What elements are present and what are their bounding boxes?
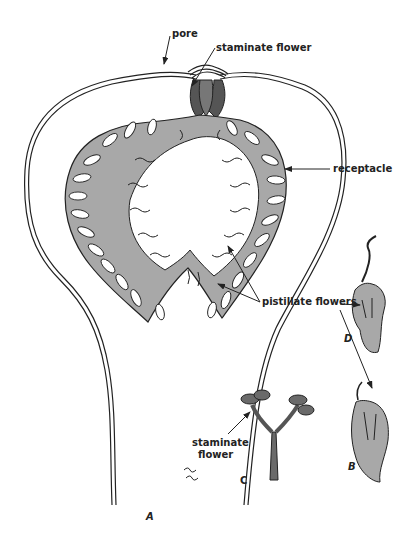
detached-style-fragment xyxy=(184,468,198,480)
label-pistillate-flowers: pistillate flowers xyxy=(262,296,357,307)
label-staminate-flower-top: staminate flower xyxy=(216,42,311,53)
panel-letter-a: A xyxy=(146,511,154,522)
panel-letter-d: D xyxy=(344,333,352,344)
panel-b-pistillate-flower xyxy=(352,382,389,482)
panel-letter-c: C xyxy=(240,475,247,486)
label-staminate-flower-c-line1: staminate xyxy=(192,437,249,448)
label-staminate-flower-c-line2: flower xyxy=(198,449,233,460)
label-pore: pore xyxy=(172,28,198,39)
label-receptacle: receptacle xyxy=(333,163,392,174)
staminate-flower-cluster xyxy=(190,80,225,118)
panel-letter-b: B xyxy=(348,461,356,472)
panel-d-pistillate-flower xyxy=(352,236,385,353)
diagram-canvas: pore staminate flower receptacle pistill… xyxy=(0,0,414,536)
